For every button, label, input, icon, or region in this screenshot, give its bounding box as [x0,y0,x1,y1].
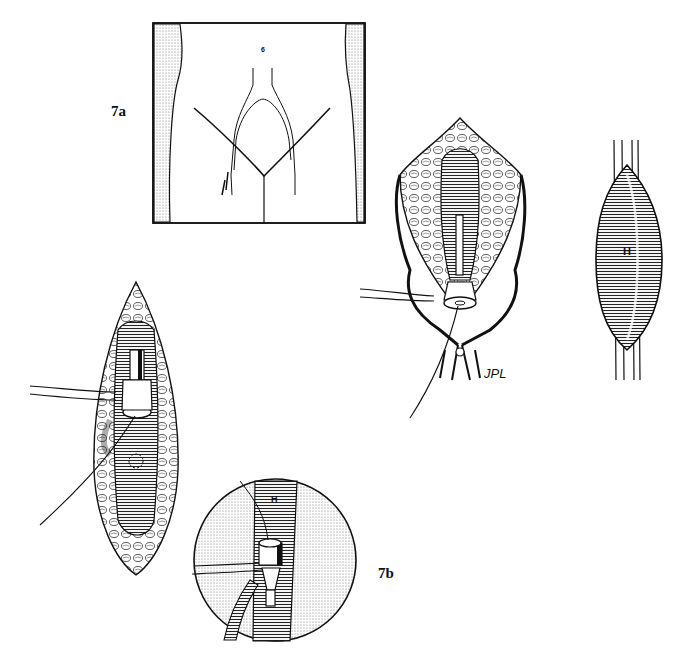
panel-7a-torso [153,23,365,223]
umbilicus-marker: 6 [261,46,265,53]
panel-open-incision [30,282,178,575]
inset-aneurysm-mark: H [271,494,278,504]
figure-label-7b: 7b [378,565,394,582]
illustration-canvas [0,0,683,664]
aneurysm-mark: H [623,245,631,257]
artist-signature: JPL [484,366,506,381]
panel-aneurysm [596,140,662,380]
suture-line [410,306,458,418]
figure-label-7a: 7a [111,103,126,120]
